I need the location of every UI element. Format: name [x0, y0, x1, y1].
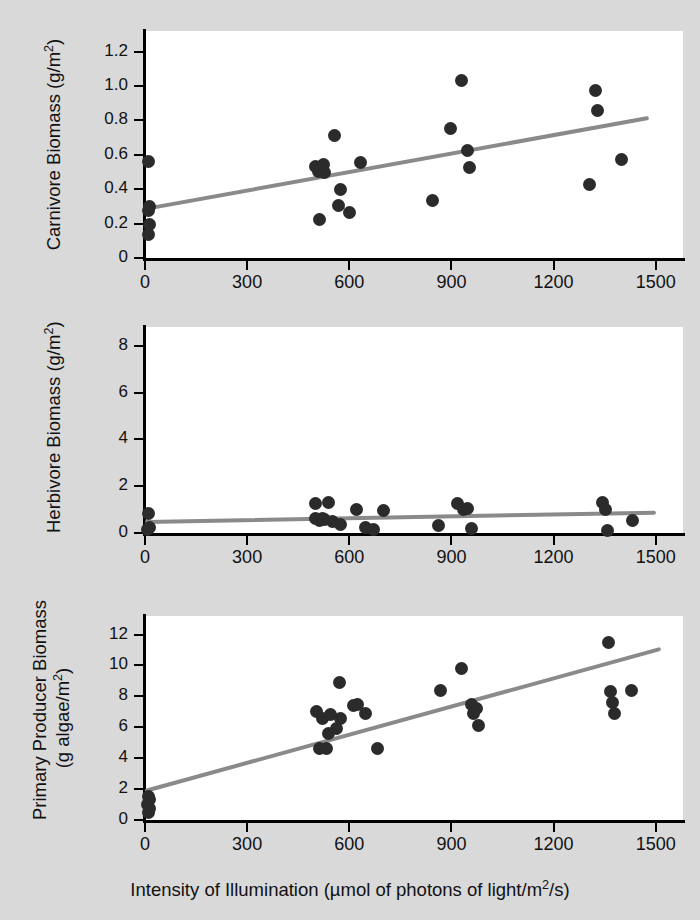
data-point: [589, 84, 602, 97]
y-axis-tick: [134, 485, 143, 487]
y-axis-line: [143, 325, 146, 535]
figure-root: 00.20.40.60.81.01.2030060090012001500Car…: [0, 0, 700, 920]
x-axis-tick-label: 300: [207, 272, 287, 293]
data-point: [599, 503, 612, 516]
data-point: [334, 712, 347, 725]
y-axis-tick: [134, 757, 143, 759]
y-axis-tick-label: 1.2: [68, 41, 128, 61]
x-axis-tick: [553, 823, 555, 832]
x-axis-tick-label: 1500: [616, 272, 696, 293]
y-axis-tick-label: 0.6: [68, 144, 128, 164]
y-axis-tick: [134, 788, 143, 790]
data-point: [350, 503, 363, 516]
y-axis-tick-label: 2: [68, 778, 128, 798]
x-axis-tick: [655, 261, 657, 270]
y-axis-tick: [134, 392, 143, 394]
y-axis-tick-label: 0: [68, 247, 128, 267]
data-point: [625, 684, 638, 697]
data-point: [142, 155, 155, 168]
y-axis-tick-label: 0: [68, 522, 128, 542]
plot-area: [145, 31, 683, 258]
data-point: [354, 156, 367, 169]
x-axis-tick: [553, 536, 555, 545]
x-axis-tick-label: 600: [309, 834, 389, 855]
data-point: [313, 213, 326, 226]
y-axis-tick: [134, 634, 143, 636]
y-axis-tick: [134, 695, 143, 697]
data-point: [602, 636, 615, 649]
y-axis-tick-label: 6: [68, 716, 128, 736]
y-axis-tick-label: 8: [68, 335, 128, 355]
data-point: [142, 507, 155, 520]
data-point: [472, 719, 485, 732]
data-point: [444, 122, 457, 135]
data-point: [359, 707, 372, 720]
x-axis-tick: [655, 823, 657, 832]
x-axis-tick-label: 0: [105, 834, 185, 855]
data-point: [142, 806, 155, 819]
y-axis-title: Herbivore Biomass (g/m2): [42, 327, 65, 533]
x-axis-tick-label: 900: [411, 834, 491, 855]
x-axis-tick: [144, 536, 146, 545]
y-axis-tick: [134, 154, 143, 156]
y-axis-tick-label: 0: [68, 809, 128, 829]
data-point: [455, 74, 468, 87]
data-point: [434, 684, 447, 697]
x-axis-tick: [553, 261, 555, 270]
x-axis-tick: [655, 536, 657, 545]
y-axis-tick-label: 0.2: [68, 213, 128, 233]
data-point: [343, 206, 356, 219]
y-axis-tick: [134, 223, 143, 225]
data-point: [626, 514, 639, 527]
x-axis-line: [143, 258, 685, 261]
chart-panel-carnivore: 00.20.40.60.81.01.2030060090012001500Car…: [0, 0, 700, 295]
data-point: [601, 524, 614, 537]
y-axis-tick: [134, 51, 143, 53]
x-axis-tick: [144, 823, 146, 832]
data-point: [334, 183, 347, 196]
data-point: [608, 707, 621, 720]
x-axis-tick-label: 1500: [616, 547, 696, 568]
x-axis-tick-label: 1500: [616, 834, 696, 855]
x-axis-tick-label: 1200: [514, 547, 594, 568]
y-axis-tick: [134, 345, 143, 347]
x-axis-tick-label: 0: [105, 272, 185, 293]
x-axis-tick: [246, 261, 248, 270]
y-axis-tick: [134, 819, 143, 821]
y-axis-tick-label: 1.0: [68, 75, 128, 95]
x-axis-tick-label: 1200: [514, 834, 594, 855]
y-axis-tick-label: 10: [68, 654, 128, 674]
data-point: [426, 194, 439, 207]
y-axis-tick: [134, 188, 143, 190]
x-axis-tick-label: 600: [309, 547, 389, 568]
x-axis-tick-label: 0: [105, 547, 185, 568]
x-axis-tick: [450, 261, 452, 270]
y-axis-tick-label: 4: [68, 747, 128, 767]
x-axis-line: [143, 820, 685, 823]
y-axis-tick-label: 0.8: [68, 109, 128, 129]
x-axis-tick-label: 1200: [514, 272, 594, 293]
y-axis-tick-label: 6: [68, 382, 128, 402]
y-axis-tick: [134, 119, 143, 121]
x-axis-tick: [348, 823, 350, 832]
y-axis-title: Carnivore Biomass (g/m2): [42, 31, 65, 258]
data-point: [322, 496, 335, 509]
x-axis-tick: [246, 823, 248, 832]
x-axis-tick: [144, 261, 146, 270]
chart-panel-herbivore: 02468030060090012001500Herbivore Biomass…: [0, 295, 700, 592]
y-axis-tick-label: 8: [68, 685, 128, 705]
data-point: [463, 161, 476, 174]
x-axis-tick: [450, 823, 452, 832]
y-axis-tick-label: 2: [68, 475, 128, 495]
x-axis-tick: [348, 536, 350, 545]
y-axis-title: Primary Producer Biomass(g algae/m2): [30, 616, 74, 820]
y-axis-tick-label: 12: [68, 624, 128, 644]
x-axis-tick: [450, 536, 452, 545]
chart-panel-primary-producer: 024681012030060090012001500Primary Produ…: [0, 592, 700, 920]
x-axis-tick-label: 300: [207, 547, 287, 568]
data-point: [615, 153, 628, 166]
y-axis-tick: [134, 438, 143, 440]
y-axis-tick: [134, 726, 143, 728]
data-point: [333, 676, 346, 689]
y-axis-tick-label: 0.4: [68, 178, 128, 198]
